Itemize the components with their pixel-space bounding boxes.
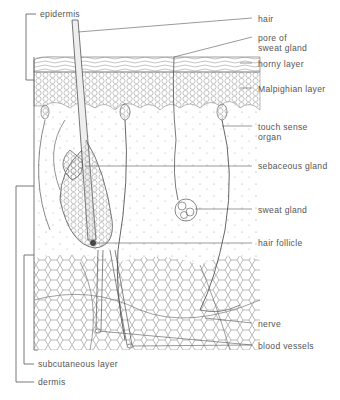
label-blood-vessels: blood vessels <box>258 341 314 351</box>
label-sweat-gland: sweat gland <box>258 205 307 215</box>
label-malpighian-layer: Malpighian layer <box>258 84 325 94</box>
label-sebaceous-gland: sebaceous gland <box>258 161 327 171</box>
label-horny-layer: horny layer <box>258 59 304 69</box>
label-touch-line1: touch sense <box>258 122 308 132</box>
label-pore-line1: pore of <box>258 33 287 43</box>
label-pore-line2: sweat gland <box>258 43 307 53</box>
label-hair-follicle: hair follicle <box>258 238 303 248</box>
label-hair: hair <box>258 14 274 24</box>
label-subcutaneous-layer: subcutaneous layer <box>38 359 118 369</box>
label-epidermis: epidermis <box>40 9 80 19</box>
label-dermis: dermis <box>38 377 66 387</box>
label-touch-line2: organ <box>258 132 281 142</box>
label-nerve: nerve <box>258 319 281 329</box>
horny-layer-region <box>34 57 260 72</box>
